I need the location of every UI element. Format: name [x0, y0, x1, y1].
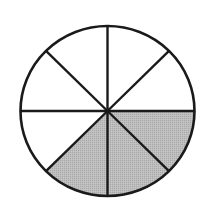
- fraction-circle-diagram: [0, 0, 204, 203]
- center-point: [105, 109, 109, 113]
